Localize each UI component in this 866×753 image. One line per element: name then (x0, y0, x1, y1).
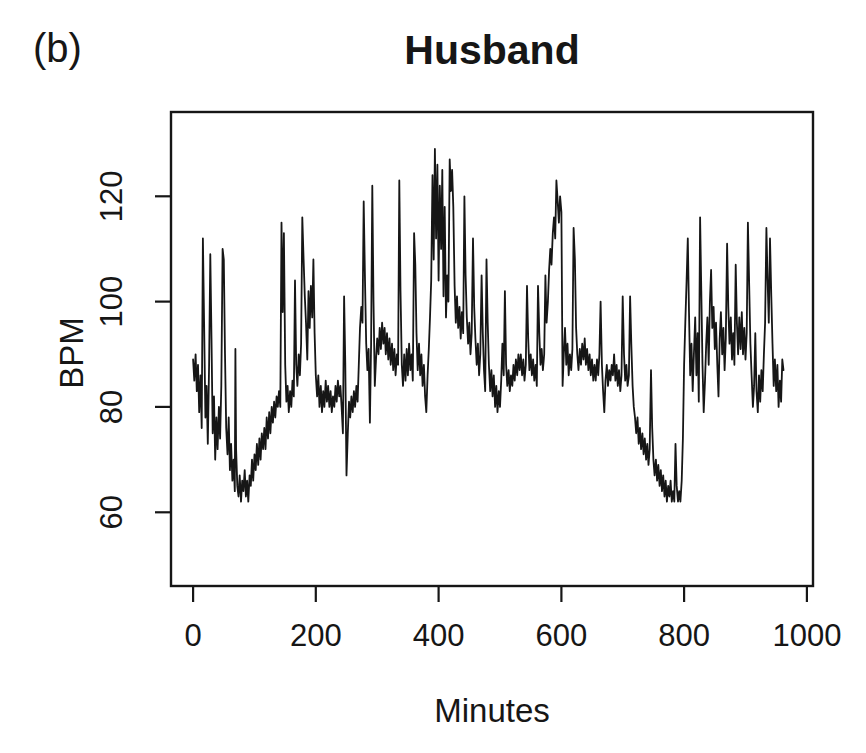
x-tick-label: 400 (413, 618, 465, 653)
x-tick-label: 0 (184, 618, 201, 653)
y-tick-label: 60 (94, 495, 129, 529)
y-axis-label: BPM (53, 317, 90, 389)
figure-label: (b) (33, 26, 82, 70)
y-tick-label: 80 (94, 390, 129, 424)
y-tick-label: 100 (94, 276, 129, 328)
axes-layer: 020040060080010006080100120 (94, 112, 841, 653)
x-tick-label: 200 (290, 618, 342, 653)
series-line (193, 149, 783, 502)
y-tick-label: 120 (94, 170, 129, 222)
series-layer (193, 149, 783, 502)
x-tick-label: 800 (658, 618, 710, 653)
heart-rate-figure: 020040060080010006080100120 (b) Husband … (0, 0, 866, 753)
chart-title: Husband (404, 27, 579, 73)
chart-canvas: 020040060080010006080100120 (b) Husband … (0, 0, 866, 753)
x-tick-label: 600 (536, 618, 588, 653)
x-axis-label: Minutes (434, 692, 550, 729)
x-tick-label: 1000 (772, 618, 841, 653)
